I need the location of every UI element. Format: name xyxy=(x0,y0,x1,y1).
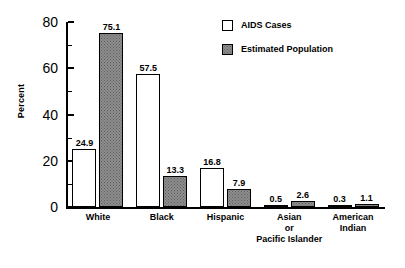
bar: 57.5 xyxy=(136,74,160,207)
legend-swatch-icon-aids-cases xyxy=(222,20,233,31)
bar-value-label: 7.9 xyxy=(233,179,246,188)
bar: 13.3 xyxy=(163,176,187,207)
bar: 75.1 xyxy=(99,33,123,207)
x-axis-line xyxy=(66,207,385,209)
y-axis-title: Percent xyxy=(16,66,26,136)
bar: 16.8 xyxy=(200,168,224,207)
bar: 0.5 xyxy=(264,205,288,207)
x-axis-category-label: AmericanIndian xyxy=(293,212,405,234)
x-axis-category-label-line: Pacific Islander xyxy=(229,234,349,245)
y-tick-label: 40 xyxy=(42,108,58,122)
x-axis-category-label-line: American xyxy=(293,212,405,223)
bar-value-label: 16.8 xyxy=(203,158,221,167)
legend-label-aids-cases: AIDS Cases xyxy=(241,21,292,30)
bar-value-label: 24.9 xyxy=(76,139,94,148)
bar: 2.6 xyxy=(291,201,315,207)
y-tick-label: 60 xyxy=(42,61,58,75)
bar: 1.1 xyxy=(355,204,379,207)
bar-chart: Percent 020406080 24.975.157.513.316.87.… xyxy=(0,0,405,268)
bar-value-label: 57.5 xyxy=(139,64,157,73)
bar-value-label: 0.5 xyxy=(270,195,283,204)
bar-value-label: 2.6 xyxy=(297,191,310,200)
bar: 0.3 xyxy=(328,205,352,207)
bar: 24.9 xyxy=(72,149,96,207)
y-tick-label: 80 xyxy=(42,15,58,29)
legend-item-estimated-population: Estimated Population xyxy=(222,44,333,55)
y-tick-label: 20 xyxy=(42,154,58,168)
bar-value-label: 1.1 xyxy=(360,194,373,203)
legend-label-estimated-population: Estimated Population xyxy=(241,45,333,54)
bar-value-label: 75.1 xyxy=(103,23,121,32)
x-axis-category-label-line: Indian xyxy=(293,223,405,234)
legend: AIDS Cases Estimated Population xyxy=(222,20,333,68)
legend-item-aids-cases: AIDS Cases xyxy=(222,20,333,31)
bar-value-label: 13.3 xyxy=(166,166,184,175)
bar: 7.9 xyxy=(227,189,251,207)
legend-swatch-icon-estimated-population xyxy=(222,44,233,55)
x-axis-category-labels: WhiteBlackHispanicAsianorPacific Islande… xyxy=(66,212,385,266)
bar-value-label: 0.3 xyxy=(333,195,346,204)
